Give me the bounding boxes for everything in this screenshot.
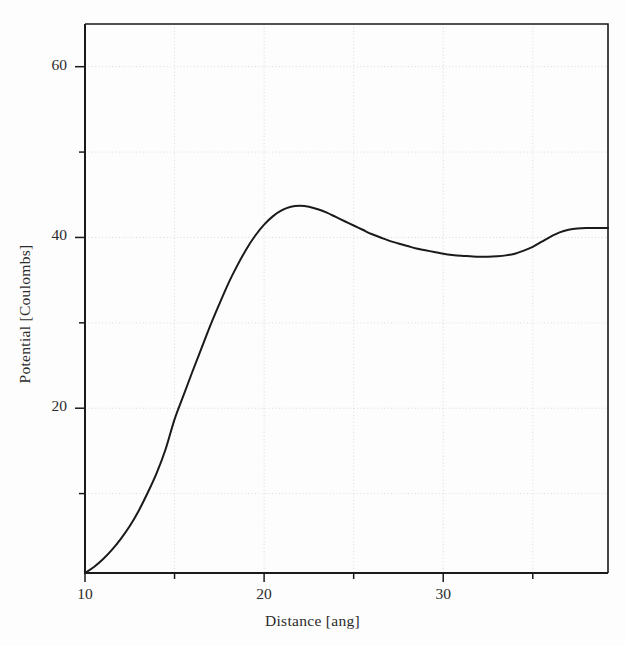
plot-frame — [85, 24, 608, 573]
plot-axes-left-bottom — [85, 24, 608, 573]
y-tick-label: 60 — [27, 56, 67, 74]
gridlines-group — [85, 24, 608, 573]
potential-curve — [85, 206, 608, 573]
y-axis-title: Potential [Coulombs] — [16, 214, 34, 414]
chart-figure: 204060102030 Distance [ang] Potential [C… — [0, 0, 625, 646]
plot-canvas — [0, 0, 625, 646]
x-axis-title: Distance [ang] — [0, 612, 625, 630]
plot-box-top-right — [85, 24, 608, 573]
axis-ticks-group — [75, 67, 533, 582]
x-tick-label: 20 — [244, 585, 284, 603]
data-series-group — [85, 206, 608, 573]
x-tick-label: 10 — [65, 585, 105, 603]
x-tick-label: 30 — [423, 585, 463, 603]
